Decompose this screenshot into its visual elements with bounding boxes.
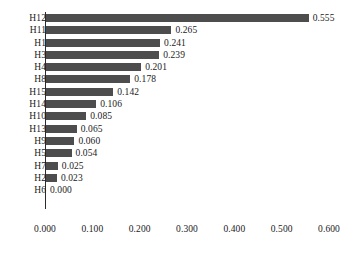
category-label: H13 [0,123,46,135]
bar-value-label: 0.239 [163,49,185,61]
bar-row: H110.265 [0,24,364,36]
bar-track: 0.201 [46,61,364,73]
bar-value-label: 0.025 [62,160,84,172]
bar-value-label: 0.106 [100,98,122,110]
bar-row: H30.239 [0,49,364,61]
category-label: H2 [0,172,46,184]
bar-rows-container: H120.555H110.265H10.241H30.239H40.201H80… [0,12,364,196]
bar-track: 0.065 [46,123,364,135]
bar [46,162,58,170]
bar [46,51,159,59]
bar [46,63,141,71]
bar-row: H150.142 [0,86,364,98]
category-label: H6 [0,184,46,196]
bar-row: H140.106 [0,98,364,110]
bar-value-label: 0.178 [134,73,156,85]
bar-row: H60.000 [0,184,364,196]
x-tick-label: 0.500 [271,222,293,236]
category-label: H15 [0,86,46,98]
bar-track: 0.000 [46,184,364,196]
horizontal-bar-chart: H120.555H110.265H10.241H30.239H40.201H80… [0,0,364,258]
bar-track: 0.106 [46,98,364,110]
bar-value-label: 0.241 [164,37,186,49]
category-label: H4 [0,61,46,73]
bar-value-label: 0.142 [117,86,139,98]
bar-track: 0.054 [46,147,364,159]
x-axis-tick-labels: 0.0000.1000.2000.3000.4000.5000.600 [0,222,364,236]
bar [46,137,74,145]
bar [46,174,57,182]
category-label: H1 [0,37,46,49]
category-label: H7 [0,160,46,172]
bar-row: H120.555 [0,12,364,24]
bar-track: 0.142 [46,86,364,98]
bar-row: H80.178 [0,73,364,85]
bar-track: 0.239 [46,49,364,61]
bar-track: 0.025 [46,160,364,172]
category-label: H14 [0,98,46,110]
bar-row: H40.201 [0,61,364,73]
category-label: H10 [0,110,46,122]
bar-row: H20.023 [0,172,364,184]
bar [46,39,160,47]
bar [46,26,171,34]
bar [46,149,72,157]
bar-track: 0.178 [46,73,364,85]
x-tick-label: 0.400 [223,222,245,236]
bar-track: 0.023 [46,172,364,184]
bar-value-label: 0.265 [175,24,197,36]
x-tick-label: 0.200 [129,222,151,236]
bar-track: 0.555 [46,12,364,24]
category-label: H3 [0,49,46,61]
bar-row: H70.025 [0,160,364,172]
bar-value-label: 0.555 [313,12,335,24]
x-tick-label: 0.300 [176,222,198,236]
bar-value-label: 0.000 [50,184,72,196]
category-label: H8 [0,73,46,85]
bar-value-label: 0.085 [90,110,112,122]
bar-value-label: 0.023 [61,172,83,184]
bar [46,14,309,22]
bar-value-label: 0.060 [78,135,100,147]
x-tick-label: 0.100 [81,222,103,236]
bar-row: H10.241 [0,37,364,49]
bar-track: 0.241 [46,37,364,49]
bar-value-label: 0.054 [76,147,98,159]
category-label: H12 [0,12,46,24]
bar-row: H130.065 [0,123,364,135]
bar-track: 0.265 [46,24,364,36]
x-tick-label: 0.000 [34,222,56,236]
bar-value-label: 0.065 [81,123,103,135]
bar-track: 0.085 [46,110,364,122]
category-label: H9 [0,135,46,147]
bar-track: 0.060 [46,135,364,147]
bar-row: H100.085 [0,110,364,122]
category-label: H11 [0,24,46,36]
bar [46,125,77,133]
bar-row: H50.054 [0,147,364,159]
bar-value-label: 0.201 [145,61,167,73]
bar [46,75,130,83]
bar [46,88,113,96]
bar-row: H90.060 [0,135,364,147]
category-label: H5 [0,147,46,159]
bar [46,100,96,108]
x-tick-label: 0.600 [318,222,340,236]
bar [46,112,86,120]
